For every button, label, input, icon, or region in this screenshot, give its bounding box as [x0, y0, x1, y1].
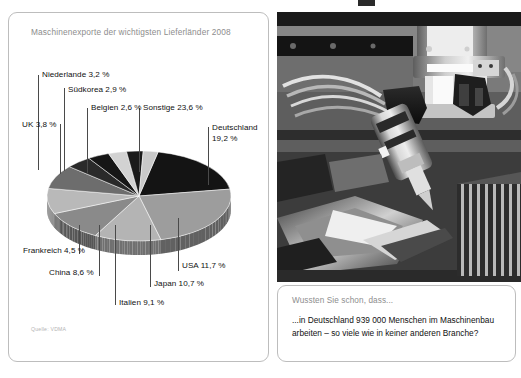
leader-line-deutschland	[208, 127, 209, 185]
callout-japan: Japan 10,7 %	[154, 279, 204, 290]
did-you-know-box: Wussten Sie schon, dass... ...in Deutsch…	[277, 285, 516, 362]
callout-italien: Italien 9,1 %	[119, 298, 164, 309]
callout-china: China 8,6 %	[49, 268, 94, 279]
callout-sonstige: Sonstige 23,6 %	[143, 103, 203, 114]
cropped-text-mark	[358, 0, 375, 6]
pie-chart	[9, 13, 270, 363]
callout-niederlande: Niederlande 3,2 %	[42, 70, 109, 81]
pie-slice-uk	[89, 154, 139, 196]
chart-source-note: Quelle: VDMA	[31, 326, 66, 332]
leader-line-italien	[115, 225, 116, 305]
pie-slice-niederlande	[109, 151, 139, 196]
did-you-know-body: ...in Deutschland 939 000 Menschen im Ma…	[292, 314, 505, 339]
callout-deutschland-line1: Deutschland	[212, 123, 258, 134]
leader-line-uk	[60, 124, 61, 174]
pie-slice-sonstige	[139, 189, 231, 240]
pie-slice-belgien	[139, 151, 158, 196]
callout-uk: UK 3,8 %	[22, 120, 57, 131]
pie-slice-usa	[95, 196, 161, 241]
leader-line-usa	[178, 218, 179, 271]
pie-slice-deutschland	[139, 152, 230, 196]
pie-chart-svg	[9, 13, 270, 363]
leader-line-belgien	[87, 108, 88, 173]
chart-title: Maschinenexporte der wichtigsten Lieferl…	[31, 27, 231, 37]
callout-deutschland-line2: 19,2 %	[212, 134, 238, 145]
pie-slice-japan	[54, 196, 139, 236]
callout-belgien: Belgien 2,6 %	[91, 103, 142, 114]
pie-slice-südkorea	[126, 151, 143, 196]
pie-slice-frankreich	[69, 158, 139, 196]
callout-frankreich: Frankreich 4,5 %	[23, 246, 85, 257]
pie-slice-italien	[47, 188, 139, 213]
chart-panel: Maschinenexporte der wichtigsten Lieferl…	[8, 12, 269, 362]
leader-line-suedkorea	[64, 88, 65, 171]
cnc-machine-tool-head-photo	[277, 12, 521, 282]
leader-line-sonstige	[139, 108, 140, 172]
leader-line-china	[99, 225, 100, 276]
page-root: Maschinenexporte der wichtigsten Lieferl…	[0, 0, 521, 378]
did-you-know-heading: Wussten Sie schon, dass...	[292, 296, 393, 305]
leader-line-japan	[150, 225, 151, 287]
callout-usa: USA 11,7 %	[182, 261, 226, 272]
callout-suedkorea: Südkorea 2,9 %	[68, 85, 126, 96]
pie-slice-china	[48, 167, 139, 196]
